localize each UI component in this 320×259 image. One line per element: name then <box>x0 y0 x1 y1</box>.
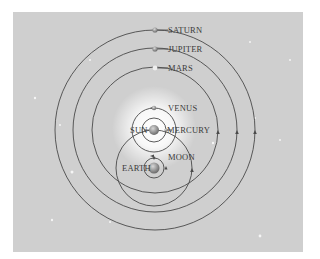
label-moon: MOON <box>168 152 195 162</box>
solar-system-diagram: SATURN JUPITER MARS VENUS MERCURY SUN MO… <box>0 0 320 259</box>
mars-body <box>153 66 158 71</box>
venus-body <box>152 106 156 110</box>
label-jupiter: JUPITER <box>168 44 203 54</box>
label-saturn: SATURN <box>168 25 202 35</box>
sun-body <box>149 125 159 135</box>
label-mars: MARS <box>168 63 193 73</box>
label-venus: VENUS <box>168 103 197 113</box>
label-sun: SUN <box>130 125 148 135</box>
arrow-up-icon <box>253 130 257 134</box>
arrow-up-icon <box>235 130 239 134</box>
jupiter-body <box>152 46 157 51</box>
saturn-body <box>152 27 157 32</box>
label-earth: EARTH <box>122 163 151 173</box>
label-mercury: MERCURY <box>167 125 210 135</box>
arrow-up-icon <box>190 168 194 172</box>
moon-body <box>153 157 156 160</box>
arrow-up-icon <box>216 130 220 134</box>
